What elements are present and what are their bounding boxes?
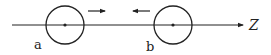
sphere-a-label: a xyxy=(34,37,42,52)
sphere-b-label: b xyxy=(146,39,154,54)
sphere-a-center-dot xyxy=(63,23,66,26)
sphere-b-center-dot xyxy=(171,23,174,26)
collision-diagram: Z a b xyxy=(0,0,271,55)
z-axis-label: Z xyxy=(248,17,259,33)
